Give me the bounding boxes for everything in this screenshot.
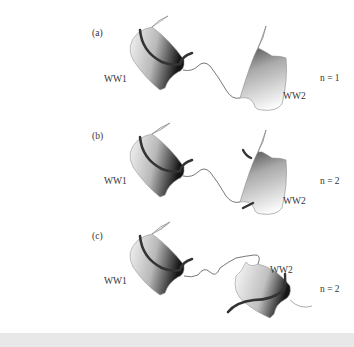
panel-c-ww2-label: WW2 — [270, 265, 293, 275]
ww2-domain-icon — [240, 130, 287, 214]
ww1-domain-icon — [130, 222, 192, 295]
panel-a-n-label: n = 1 — [320, 73, 340, 83]
panel-a-ww1-label: WW1 — [104, 74, 127, 84]
ww1-domain-icon — [130, 16, 192, 90]
panel-a-ww2-label: WW2 — [283, 91, 306, 101]
panel-a-tag: (a) — [92, 28, 103, 38]
panel-b-n-label: n = 2 — [320, 176, 340, 186]
panel-b-ww1-label: WW1 — [104, 176, 127, 186]
panel-c-ww1-label: WW1 — [104, 276, 127, 286]
panel-c-tag: (c) — [92, 231, 103, 241]
bottom-band — [0, 333, 354, 347]
linker — [183, 169, 240, 202]
panel-a — [130, 16, 287, 110]
linker — [183, 63, 240, 98]
panel-c-n-label: n = 2 — [320, 284, 340, 294]
panel-b-ww2-label: WW2 — [283, 196, 306, 206]
ww1-domain-icon — [130, 123, 192, 197]
diagram-figure: (a) WW1 WW2 n = 1 (b) WW1 WW2 n = 2 (c) … — [0, 0, 354, 333]
diagram-canvas — [0, 0, 354, 333]
panel-b — [130, 123, 287, 214]
panel-b-tag: (b) — [92, 131, 103, 141]
ww2-domain-icon — [240, 26, 287, 110]
